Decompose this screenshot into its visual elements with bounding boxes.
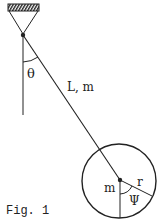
- theta-arc: [23, 57, 38, 62]
- psi-arc: [120, 186, 132, 194]
- pendulum-diagram: [0, 0, 160, 224]
- pendulum-figure: θ L, m m r Ψ Fig. 1: [0, 0, 160, 224]
- disk-mass-label: m: [104, 182, 115, 194]
- rod-label: L, m: [67, 81, 94, 93]
- ceiling-support: [8, 4, 39, 34]
- theta-label: θ: [27, 67, 35, 80]
- figure-caption: Fig. 1: [6, 205, 49, 217]
- radius-label: r: [137, 176, 143, 188]
- psi-label: Ψ: [129, 195, 140, 207]
